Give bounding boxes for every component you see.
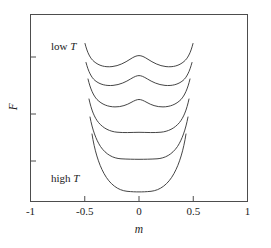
x-tick-label-0: -1 bbox=[11, 206, 51, 217]
free-energy-figure: -1 -0.5 0 0.5 1 m F low T high T bbox=[0, 0, 271, 248]
x-axis-label: m bbox=[128, 224, 150, 236]
y-axis-label: F bbox=[8, 96, 20, 118]
low-temperature-symbol: T bbox=[70, 40, 76, 52]
x-axis-ticks bbox=[31, 196, 248, 202]
curve-high-t bbox=[92, 134, 186, 192]
y-axis-ticks bbox=[31, 57, 37, 161]
x-tick-label-2: 0 bbox=[119, 206, 159, 217]
low-temperature-text: low bbox=[51, 40, 70, 52]
curve-3 bbox=[88, 79, 190, 107]
high-temperature-text: high bbox=[51, 172, 73, 184]
curve-5 bbox=[90, 117, 188, 159]
high-temperature-symbol: T bbox=[73, 172, 79, 184]
high-temperature-annotation: high T bbox=[51, 173, 79, 184]
low-temperature-annotation: low T bbox=[51, 41, 76, 52]
free-energy-curves bbox=[85, 44, 193, 192]
x-tick-label-4: 1 bbox=[228, 206, 268, 217]
x-tick-label-1: -0.5 bbox=[65, 206, 105, 217]
curve-low-t bbox=[85, 44, 193, 67]
x-tick-label-3: 0.5 bbox=[173, 206, 213, 217]
